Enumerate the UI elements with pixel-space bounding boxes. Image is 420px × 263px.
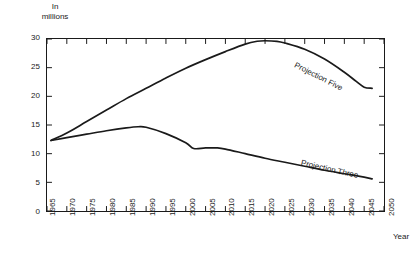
unit-caption-line-2: millions bbox=[25, 12, 85, 22]
y-tick-label-25: 25 bbox=[10, 63, 40, 71]
x-axis-title: Year bbox=[393, 232, 409, 241]
x-tick-label-2025: 2025 bbox=[288, 198, 296, 216]
top-axis-ticks bbox=[47, 39, 384, 44]
x-tick-label-2010: 2010 bbox=[228, 198, 236, 216]
y-axis-unit-caption: In millions bbox=[25, 2, 85, 22]
x-tick-label-2030: 2030 bbox=[308, 198, 316, 216]
x-tick-label-2035: 2035 bbox=[328, 198, 336, 216]
x-tick-label-2020: 2020 bbox=[268, 198, 276, 216]
x-tick-label-2000: 2000 bbox=[189, 198, 197, 216]
x-tick-label-1980: 1980 bbox=[109, 198, 117, 216]
y-tick-label-15: 15 bbox=[10, 121, 40, 129]
plot-svg bbox=[47, 39, 384, 211]
x-tick-label-1995: 1995 bbox=[169, 198, 177, 216]
x-tick-label-1990: 1990 bbox=[149, 198, 157, 216]
y-tick-label-20: 20 bbox=[10, 92, 40, 100]
x-tick-label-2040: 2040 bbox=[348, 198, 356, 216]
x-tick-label-1975: 1975 bbox=[89, 198, 97, 216]
plot-area bbox=[46, 38, 385, 212]
unit-caption-line-1: In bbox=[25, 2, 85, 12]
x-tick-label-2045: 2045 bbox=[368, 198, 376, 216]
y-tick-label-10: 10 bbox=[10, 150, 40, 158]
right-axis-ticks bbox=[379, 39, 384, 211]
x-tick-label-2050: 2050 bbox=[388, 198, 396, 216]
x-tick-label-2005: 2005 bbox=[209, 198, 217, 216]
x-tick-label-1985: 1985 bbox=[129, 198, 137, 216]
chart-figure: In millions 051015202530 196519701975198… bbox=[0, 0, 420, 263]
x-tick-label-2015: 2015 bbox=[248, 198, 256, 216]
y-tick-label-30: 30 bbox=[10, 34, 40, 42]
y-tick-label-5: 5 bbox=[10, 179, 40, 187]
series-line-projection-five bbox=[51, 41, 372, 141]
y-tick-label-0: 0 bbox=[10, 208, 40, 216]
x-tick-label-1965: 1965 bbox=[49, 198, 57, 216]
x-tick-label-1970: 1970 bbox=[69, 198, 77, 216]
left-axis-ticks bbox=[47, 39, 52, 211]
